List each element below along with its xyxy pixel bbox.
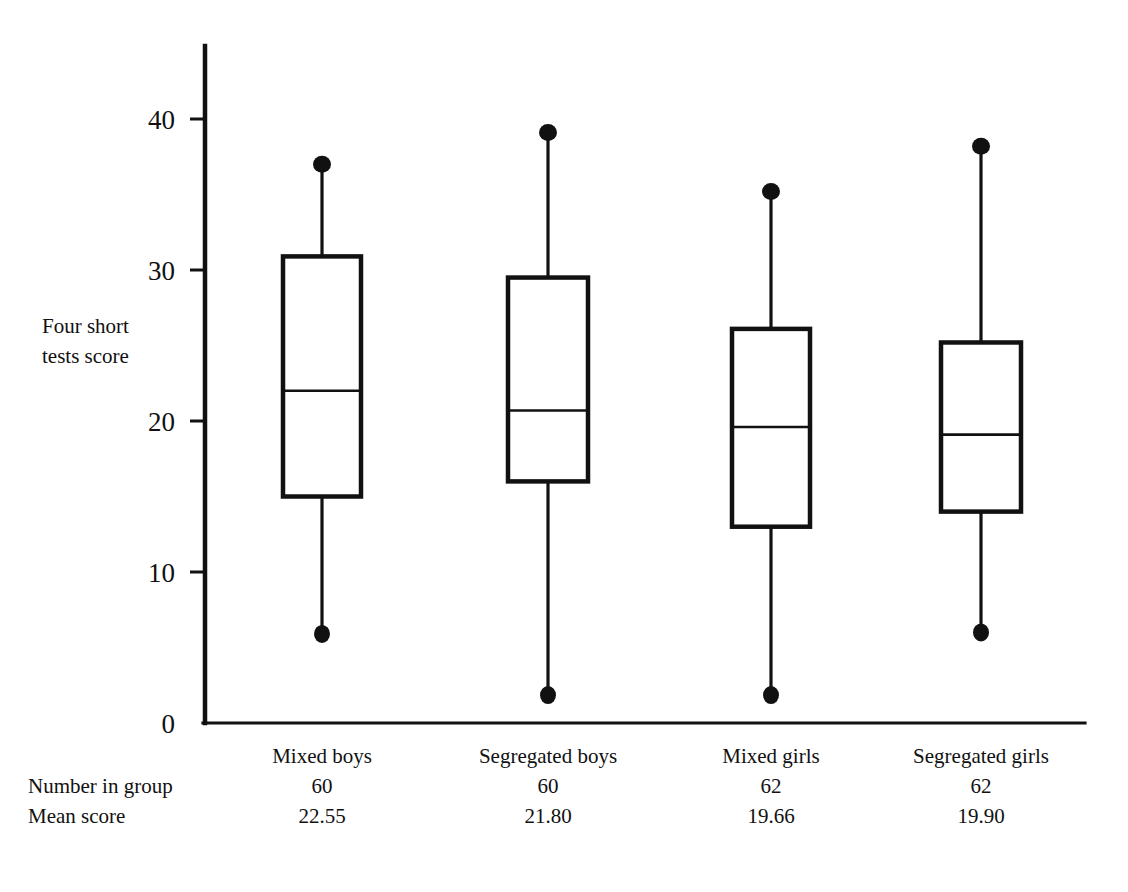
- summary-table: Mixed boys Segregated boys Mixed girls S…: [0, 744, 1128, 844]
- number-cell-3: 62: [876, 774, 1086, 799]
- number-cell-0: 60: [217, 774, 427, 799]
- box-plot-4: [941, 138, 1021, 642]
- table-row-number: Number in group 60 60 62 62: [0, 774, 1128, 804]
- boxplot-figure: 010203040 Four short tests score Mixed b…: [0, 0, 1128, 892]
- y-tick-label-40: 40: [148, 105, 175, 135]
- mean-cell-3: 19.90: [876, 804, 1086, 829]
- group-cell-0: Mixed boys: [217, 744, 427, 769]
- extreme-high-dot-1: [313, 156, 331, 173]
- extreme-low-dot-1: [314, 625, 330, 643]
- box-plots: [283, 124, 1021, 704]
- box-plot-2: [508, 124, 588, 704]
- number-cell-2: 62: [666, 774, 876, 799]
- box-2: [508, 278, 588, 482]
- y-tick-label-30: 30: [148, 256, 175, 286]
- mean-cell-0: 22.55: [217, 804, 427, 829]
- y-tick-label-20: 20: [148, 407, 175, 437]
- group-cell-2: Mixed girls: [666, 744, 876, 769]
- row-label-mean: Mean score: [28, 804, 125, 829]
- row-label-number: Number in group: [28, 774, 173, 799]
- box-1: [283, 256, 361, 496]
- mean-cell-2: 19.66: [666, 804, 876, 829]
- box-4: [941, 342, 1021, 511]
- extreme-low-dot-3: [763, 686, 779, 704]
- extreme-low-dot-4: [973, 623, 989, 641]
- extreme-high-dot-3: [762, 183, 780, 200]
- table-row-mean: Mean score 22.55 21.80 19.66 19.90: [0, 804, 1128, 834]
- group-cell-1: Segregated boys: [443, 744, 653, 769]
- mean-cell-1: 21.80: [443, 804, 653, 829]
- extreme-high-dot-2: [539, 124, 557, 141]
- extreme-low-dot-2: [540, 686, 556, 704]
- y-axis-title: Four short tests score: [42, 312, 222, 372]
- extreme-high-dot-4: [972, 138, 990, 155]
- box-plot-3: [732, 183, 810, 704]
- y-tick-label-10: 10: [148, 558, 175, 588]
- group-cell-3: Segregated girls: [876, 744, 1086, 769]
- box-plot-1: [283, 156, 361, 643]
- number-cell-1: 60: [443, 774, 653, 799]
- y-tick-label-0: 0: [162, 709, 176, 739]
- y-axis-tick-labels: 010203040: [148, 105, 175, 739]
- table-row-groups: Mixed boys Segregated boys Mixed girls S…: [0, 744, 1128, 774]
